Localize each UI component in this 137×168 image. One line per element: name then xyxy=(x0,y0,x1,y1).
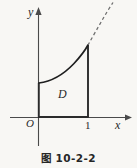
figure-container: y x O 1 D 图 10-2-2 xyxy=(0,0,137,168)
x-tick-label-1: 1 xyxy=(85,120,91,131)
y-axis-arrowhead xyxy=(35,7,41,15)
figure-caption: 图 10-2-2 xyxy=(0,150,137,165)
origin-label: O xyxy=(26,118,34,129)
region-label-d: D xyxy=(58,88,67,100)
x-axis-arrowhead xyxy=(125,114,132,120)
x-axis-label: x xyxy=(115,119,120,131)
plot-canvas xyxy=(0,0,137,168)
y-axis-label: y xyxy=(28,6,33,18)
boundary-curve-solid xyxy=(39,45,88,83)
boundary-curve-dashed xyxy=(88,3,113,46)
